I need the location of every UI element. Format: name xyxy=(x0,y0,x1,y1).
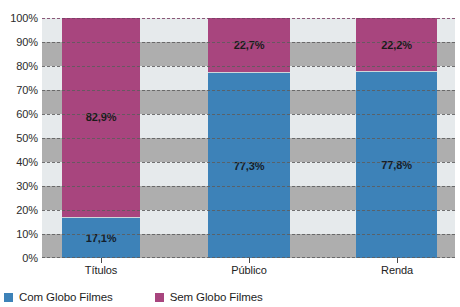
x-axis-label-titulos: Títulos xyxy=(85,264,117,276)
bar-value-label: 22,2% xyxy=(381,39,412,51)
gridline xyxy=(42,18,455,19)
gridline xyxy=(42,234,455,235)
y-axis-tick-label: 0% xyxy=(0,253,38,264)
gridline xyxy=(42,114,455,115)
bar-segment-sem-globo-filmes[interactable]: 82,9% xyxy=(62,18,140,217)
gridline xyxy=(42,186,455,187)
gridline xyxy=(42,210,455,211)
y-axis-tick-label: 20% xyxy=(0,205,38,216)
y-axis-tick-label: 30% xyxy=(0,181,38,192)
y-axis-tick-label: 80% xyxy=(0,61,38,72)
chart-legend: Com Globo Filmes Sem Globo Filmes xyxy=(4,289,285,305)
bar-segment-com-globo-filmes[interactable]: 77,8% xyxy=(356,71,437,258)
gridline xyxy=(42,138,455,139)
x-axis-label-publico: Público xyxy=(231,264,266,276)
y-axis-tick-label: 100% xyxy=(0,13,38,24)
square-swatch-icon xyxy=(4,293,13,302)
y-axis-tick-label: 60% xyxy=(0,109,38,120)
gridline xyxy=(42,162,455,163)
legend-item-com-globo-filmes[interactable]: Com Globo Filmes xyxy=(4,291,113,303)
bar-segment-com-globo-filmes[interactable]: 17,1% xyxy=(62,217,140,258)
plot-area: 82,9% 17,1% 22,7% 77,3% 22,2% 77,8% xyxy=(42,18,455,258)
gridline xyxy=(42,66,455,67)
square-swatch-icon xyxy=(155,293,164,302)
bar-value-label: 77,8% xyxy=(381,159,412,171)
y-axis-tick-label: 70% xyxy=(0,85,38,96)
legend-item-label: Sem Globo Filmes xyxy=(170,291,263,303)
gridline xyxy=(42,90,455,91)
y-axis: 100% 90% 80% 70% 60% 50% 40% 30% 20% 10%… xyxy=(0,18,38,258)
y-axis-tick-label: 10% xyxy=(0,229,38,240)
y-axis-tick-label: 40% xyxy=(0,157,38,168)
stacked-bar-chart: 82,9% 17,1% 22,7% 77,3% 22,2% 77,8% xyxy=(0,0,460,307)
bar-segment-sem-globo-filmes[interactable]: 22,2% xyxy=(356,18,437,71)
y-axis-tick-label: 90% xyxy=(0,37,38,48)
x-axis-label-renda: Renda xyxy=(381,264,413,276)
x-axis-tickmark xyxy=(249,258,250,263)
x-axis-tickmark xyxy=(101,258,102,263)
legend-item-sem-globo-filmes[interactable]: Sem Globo Filmes xyxy=(155,291,263,303)
gridline xyxy=(42,42,455,43)
bar-segment-sem-globo-filmes[interactable]: 22,7% xyxy=(208,18,290,72)
bar-segment-com-globo-filmes[interactable]: 77,3% xyxy=(208,72,290,258)
legend-item-label: Com Globo Filmes xyxy=(19,291,113,303)
y-axis-tick-label: 50% xyxy=(0,133,38,144)
x-axis-tickmark xyxy=(397,258,398,263)
